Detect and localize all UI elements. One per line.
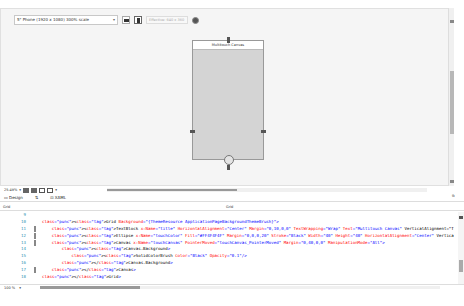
touch-color-ellipse[interactable]: [224, 155, 234, 165]
grid-icon[interactable]: [23, 188, 29, 193]
code-line[interactable]: 16 class="punc"></class="tag">Canvas.Bac…: [0, 260, 458, 267]
chevron-down-icon[interactable]: ▾: [19, 188, 21, 192]
change-marker: [34, 267, 36, 273]
tab-design-label: Design: [9, 195, 23, 200]
code-text: class="punc"><class="tag">Canvas.Backgro…: [42, 246, 170, 253]
code-text: class="punc"><class="tag">TextBlock x:Na…: [42, 226, 454, 233]
code-text: class="punc"></class="tag">Canvas>: [42, 267, 136, 274]
element-selector-left[interactable]: Grid: [3, 203, 10, 211]
scrollbar-thumb[interactable]: [459, 260, 463, 272]
view-tabs: ▭ Design ⇅ ⊡ XAML: [0, 194, 464, 202]
line-number: 16: [12, 260, 26, 267]
code-line[interactable]: 18class="punc"></class="tag">Grid>: [0, 274, 458, 281]
designer-vertical-scrollbar[interactable]: [448, 8, 454, 186]
resize-handle-right[interactable]: [261, 130, 266, 133]
phone-preview[interactable]: Multitouch Canvas: [192, 40, 264, 160]
effects-icon[interactable]: [39, 188, 45, 193]
chevron-down-icon[interactable]: ▾: [19, 286, 21, 290]
line-number: 10: [12, 219, 26, 226]
portrait-button[interactable]: [134, 16, 142, 24]
scrollbar-thumb[interactable]: [40, 286, 140, 289]
landscape-button[interactable]: [122, 16, 130, 24]
tab-design[interactable]: ▭ Design: [4, 195, 23, 200]
scrollbar-thumb[interactable]: [107, 189, 237, 191]
snap-icon[interactable]: [31, 188, 37, 193]
code-line[interactable]: 12 class="punc"><class="tag">Ellipse x:N…: [0, 233, 458, 240]
line-number: 17: [12, 267, 26, 274]
effective-size-label: Effective: 640 x 360: [146, 16, 188, 24]
scroll-up-icon[interactable]: [450, 20, 454, 23]
designer-toolbar: 5" Phone (1920 x 1080) 300% scale ▾ Effe…: [14, 14, 199, 26]
chevron-down-icon[interactable]: ▾: [55, 188, 57, 192]
line-number: 14: [12, 246, 26, 253]
code-line[interactable]: 11 class="punc"><class="tag">TextBlock x…: [0, 226, 458, 233]
code-line[interactable]: 17 class="punc"></class="tag">Canvas>: [0, 267, 458, 274]
tab-xaml[interactable]: ⊡ XAML: [50, 195, 66, 200]
change-marker: [34, 226, 36, 232]
gear-icon[interactable]: [192, 17, 199, 24]
code-text: class="punc"></class="tag">Grid>: [42, 274, 121, 281]
editor-zoom-level[interactable]: 100 %: [4, 286, 15, 290]
line-number: 15: [12, 253, 26, 260]
snap-to-gridlines-icon[interactable]: [47, 188, 53, 193]
scroll-down-icon[interactable]: [450, 180, 454, 183]
resize-handle-bottom[interactable]: [227, 165, 230, 170]
designer-horizontal-scrollbar[interactable]: [107, 188, 427, 192]
editor-horizontal-scrollbar[interactable]: [40, 286, 440, 289]
scrollbar-thumb[interactable]: [450, 71, 454, 134]
line-number: 9: [12, 212, 26, 219]
device-select-value: 5" Phone (1920 x 1080) 300% scale: [17, 16, 89, 24]
swap-panes-button[interactable]: ⇅: [35, 195, 38, 200]
zoom-level[interactable]: 25.49%: [4, 188, 17, 192]
code-text: class="punc"><class="tag">Ellipse x:Name…: [42, 233, 454, 240]
code-text: class="punc"><class="tag">Canvas x:Name=…: [42, 240, 385, 247]
visual-studio-xaml-designer: 5" Phone (1920 x 1080) 300% scale ▾ Effe…: [0, 0, 464, 306]
portrait-icon: [137, 18, 140, 23]
element-navigation-bar: Grid Grid: [0, 203, 464, 211]
element-selector-right[interactable]: Grid: [226, 203, 233, 211]
code-line[interactable]: 10class="punc"><class="tag">Grid Backgro…: [0, 219, 458, 226]
line-number: 12: [12, 233, 26, 240]
change-marker: [34, 240, 36, 246]
landscape-icon: [124, 19, 129, 22]
editor-vertical-scrollbar[interactable]: [458, 212, 464, 284]
code-line[interactable]: 9: [0, 212, 458, 219]
split-handle-icon[interactable]: [459, 216, 463, 219]
resize-handle-top[interactable]: [227, 37, 230, 43]
code-text: class="punc"><class="tag">SolidColorBrus…: [42, 253, 247, 260]
code-line[interactable]: 14 class="punc"><class="tag">Canvas.Back…: [0, 246, 458, 253]
device-select[interactable]: 5" Phone (1920 x 1080) 300% scale ▾: [14, 15, 118, 25]
code-text: class="punc"><class="tag">Grid Backgroun…: [42, 219, 279, 226]
code-line[interactable]: 15 class="punc"><class="tag">SolidColorB…: [0, 253, 458, 260]
split-view-button[interactable]: ⧉: [452, 194, 455, 198]
line-number: 11: [12, 226, 26, 233]
line-number: 18: [12, 274, 26, 281]
change-marker: [34, 233, 36, 239]
code-text: class="punc"></class="tag">Canvas.Backgr…: [42, 260, 173, 267]
tab-xaml-label: XAML: [55, 195, 66, 200]
chevron-down-icon: ▾: [113, 16, 117, 24]
resize-handle-left[interactable]: [190, 130, 195, 133]
xaml-code-editor[interactable]: 910class="punc"><class="tag">Grid Backgr…: [0, 212, 458, 282]
code-line[interactable]: 13 class="punc"><class="tag">Canvas x:Na…: [0, 240, 458, 247]
line-number: 13: [12, 240, 26, 247]
